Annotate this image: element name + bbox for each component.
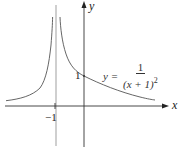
equation-fraction: 1 (x + 1)2 xyxy=(123,61,158,91)
x-tick-label: −1 xyxy=(45,112,57,123)
y-axis-label: y xyxy=(89,0,94,12)
equation-exponent: 2 xyxy=(154,76,158,85)
y-intercept-point xyxy=(83,75,85,77)
equation-denominator: (x + 1)2 xyxy=(123,74,158,91)
y-tick-label: 1 xyxy=(75,70,81,81)
equation-numerator: 1 xyxy=(136,61,146,74)
function-equation: y = 1 (x + 1)2 xyxy=(103,61,158,91)
y-axis-arrow-icon xyxy=(82,1,87,8)
equation-lhs: y = xyxy=(103,70,118,82)
curve-left-branch xyxy=(6,17,53,101)
x-axis-label: x xyxy=(172,99,177,111)
x-axis-arrow-icon xyxy=(162,104,169,109)
